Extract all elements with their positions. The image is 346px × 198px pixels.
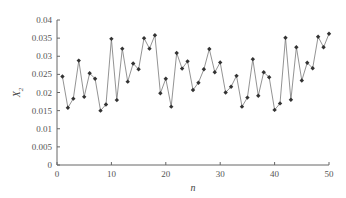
x-tick-label: 40 [270,169,280,179]
x-tick-label: 50 [325,169,335,179]
y-axis-label: X2 [11,87,25,98]
data-point-marker [213,70,217,74]
y-tick-label: 0.03 [36,51,52,61]
y-tick-label: 0.01 [36,124,52,134]
data-point-marker [109,37,113,41]
data-point-marker [147,46,151,50]
data-point-marker [153,33,157,37]
axes: 00.0050.010.0150.020.0250.030.0350.04010… [32,15,334,179]
x-tick-label: 20 [161,169,171,179]
data-point-marker [126,79,130,83]
data-point-marker [316,34,320,38]
line-chart: 00.0050.010.0150.020.0250.030.0350.04010… [0,0,346,198]
data-point-marker [120,46,124,50]
y-tick-label: 0.015 [32,106,53,116]
x-axis-label: n [191,182,196,193]
data-point-marker [321,45,325,49]
data-series [60,32,331,113]
data-point-marker [240,104,244,108]
data-point-marker [115,98,119,102]
x-tick-label: 10 [107,169,117,179]
data-point-marker [82,95,86,99]
data-point-marker [251,57,255,61]
data-point-marker [66,106,70,110]
data-point-marker [169,104,173,108]
series-line [62,34,329,111]
x-tick-label: 30 [216,169,226,179]
data-point-marker [218,60,222,64]
data-point-marker [234,74,238,78]
data-point-marker [71,96,75,100]
data-point-marker [142,36,146,40]
y-tick-label: 0.02 [36,88,52,98]
data-point-marker [158,91,162,95]
data-point-marker [327,32,331,36]
data-point-marker [207,47,211,51]
data-point-marker [289,98,293,102]
data-point-marker [294,45,298,49]
x-tick-label: 0 [55,169,60,179]
data-point-marker [77,58,81,62]
data-point-marker [300,78,304,82]
data-point-marker [60,74,64,78]
y-tick-label: 0 [48,160,53,170]
y-tick-label: 0.035 [32,33,53,43]
data-point-marker [245,95,249,99]
data-point-marker [202,67,206,71]
y-tick-label: 0.04 [36,15,52,25]
data-point-marker [256,94,260,98]
data-point-marker [174,51,178,55]
data-point-marker [164,77,168,81]
y-tick-label: 0.005 [32,142,53,152]
data-point-marker [283,36,287,40]
y-tick-label: 0.025 [32,69,53,79]
